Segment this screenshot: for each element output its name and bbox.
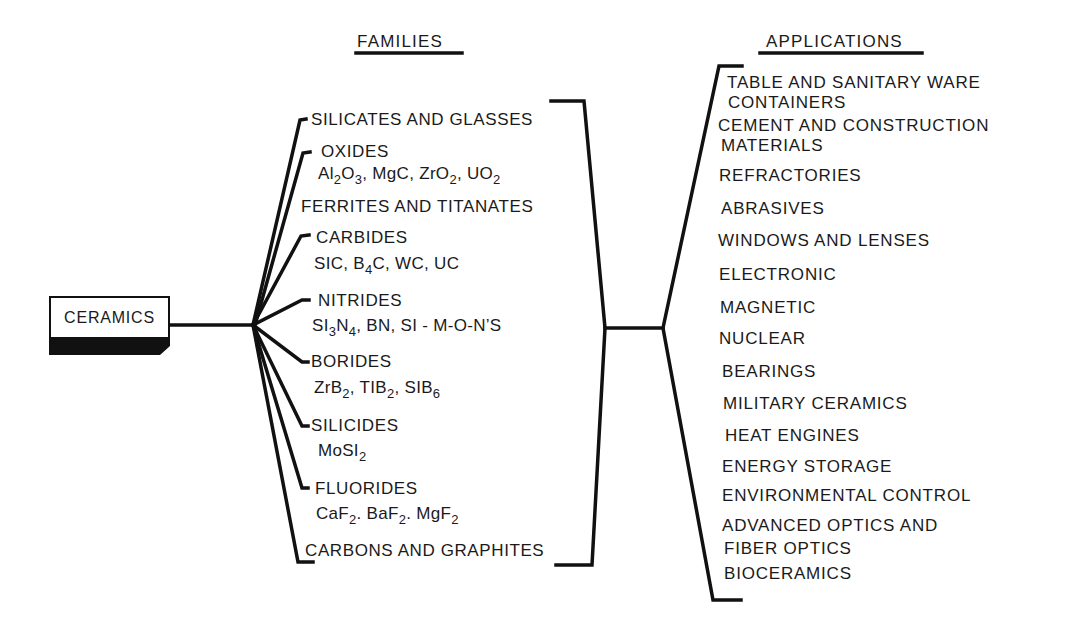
family-borides-examples: ZrB2, TIB2, SIB6	[314, 378, 440, 398]
family-borides: BORIDES	[311, 352, 392, 372]
app-environmental-control: ENVIRONMENTAL CONTROL	[722, 486, 971, 506]
app-magnetic: MAGNETIC	[720, 298, 816, 318]
ceramics-root-node: CERAMICS	[49, 296, 170, 339]
app-materials: MATERIALS	[721, 136, 823, 156]
family-nitrides: NITRIDES	[318, 291, 402, 311]
family-oxides-examples: Al2O3, MgC, ZrO2, UO2	[318, 164, 501, 184]
family-silicides-examples: MoSI2	[318, 441, 366, 461]
families-bracket	[551, 101, 605, 565]
applications-header: APPLICATIONS	[766, 32, 903, 52]
app-refractories: REFRACTORIES	[719, 166, 861, 186]
family-nitrides-examples: SI3N4, BN, SI - M-O-N’S	[312, 316, 502, 336]
app-cement-and-construction: CEMENT AND CONSTRUCTION	[718, 116, 989, 136]
family-carbons-and-graphites: CARBONS AND GRAPHITES	[305, 541, 544, 561]
app-containers: CONTAINERS	[728, 93, 846, 113]
families-header: FAMILIES	[357, 32, 443, 52]
app-advanced-optics-and: ADVANCED OPTICS AND	[722, 516, 938, 536]
family-fluorides: FLUORIDES	[315, 479, 418, 499]
app-heat-engines: HEAT ENGINES	[725, 426, 860, 446]
family-silicides: SILICIDES	[311, 416, 399, 436]
app-energy-storage: ENERGY STORAGE	[722, 457, 892, 477]
family-oxides: OXIDES	[321, 142, 389, 162]
family-ferrites-and-titanates: FERRITES AND TITANATES	[301, 197, 533, 217]
ceramics-label: CERAMICS	[51, 298, 168, 338]
family-carbides: CARBIDES	[316, 228, 408, 248]
app-military-ceramics: MILITARY CERAMICS	[723, 394, 908, 414]
app-windows-and-lenses: WINDOWS AND LENSES	[718, 231, 930, 251]
app-bearings: BEARINGS	[722, 362, 816, 382]
family-carbides-examples: SIC, B4C, WC, UC	[314, 254, 459, 274]
app-abrasives: ABRASIVES	[721, 199, 825, 219]
app-bioceramics: BIOCERAMICS	[724, 564, 852, 584]
app-nuclear: NUCLEAR	[719, 329, 806, 349]
app-fiber-optics: FIBER OPTICS	[724, 539, 852, 559]
branch-silicates	[253, 119, 306, 325]
family-silicates-and-glasses: SILICATES AND GLASSES	[311, 110, 533, 130]
app-table-and-sanitary-ware: TABLE AND SANITARY WARE	[727, 73, 981, 93]
app-electronic: ELECTRONIC	[719, 265, 837, 285]
family-fluorides-examples: CaF2. BaF2. MgF2	[316, 504, 459, 524]
